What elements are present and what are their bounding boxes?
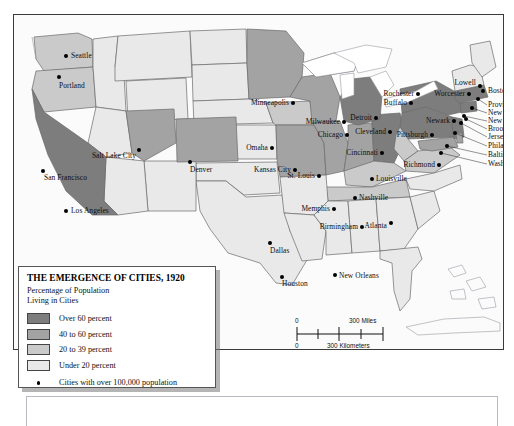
city-dot-washington <box>439 151 443 155</box>
city-dot-dallas <box>268 241 272 245</box>
legend-subtitle-line1: Percentage of Population <box>27 286 207 296</box>
city-label-newark: Newark <box>426 117 450 125</box>
legend-city-dot-wrap <box>27 377 50 388</box>
city-dot-denver <box>188 160 192 164</box>
city-dot-lowell <box>478 84 482 88</box>
legend-label-3: Under 20 percent <box>59 361 116 370</box>
city-dot-newark <box>452 119 456 123</box>
city-dot-baltimore <box>445 144 449 148</box>
city-dot-cleveland <box>388 130 392 134</box>
scale-km-zero: 0 <box>295 342 299 349</box>
city-label-seattle: Seattle <box>71 52 92 60</box>
city-label-washington: Washington <box>488 160 504 168</box>
legend-row-2: 20 to 39 percent <box>27 342 207 358</box>
legend-row-1: 40 to 60 percent <box>27 327 207 343</box>
city-label-new-orleans: New Orleans <box>339 272 379 280</box>
city-label-baltimore: Baltimore <box>488 151 504 159</box>
city-dot-philadelphia <box>453 131 457 135</box>
city-dot-minneapolis <box>291 101 295 105</box>
city-dot-providence <box>476 97 480 101</box>
city-label-buffalo: Buffalo <box>384 99 407 107</box>
city-dot-detroit <box>374 116 378 120</box>
legend-items: Over 60 percent40 to 60 percent20 to 39 … <box>27 311 207 373</box>
city-dot-cincinnati <box>380 151 384 155</box>
city-dot-atlanta <box>389 221 393 225</box>
city-dot-omaha <box>270 146 274 150</box>
legend-title: THE EMERGENCE OF CITIES, 1920 <box>27 273 207 283</box>
city-label-denver: Denver <box>190 166 212 174</box>
legend-row-city-dot: Cities with over 100,000 population <box>27 375 207 391</box>
city-label-minneapolis: Minneapolis <box>251 99 289 107</box>
city-label-portland: Portland <box>59 82 85 90</box>
legend-swatch-2 <box>27 344 50 355</box>
legend-city-dot-label: Cities with over 100,000 population <box>59 378 177 387</box>
city-label-birmingham: Birmingham <box>320 223 358 231</box>
city-label-cincinnati: Cincinnati <box>346 149 378 157</box>
city-label-worcester: Worcester <box>434 90 465 98</box>
city-label-houston: Houston <box>282 280 308 288</box>
city-dot-louisville <box>370 177 374 181</box>
city-dot-worcester <box>467 92 471 96</box>
city-label-detroit: Detroit <box>350 114 372 122</box>
city-label-memphis: Memphis <box>301 205 330 213</box>
legend-label-0: Over 60 percent <box>59 314 112 323</box>
city-dot-nashville <box>353 196 357 200</box>
legend-label-2: 20 to 39 percent <box>59 345 112 354</box>
city-dot-los-angeles <box>64 209 68 213</box>
city-dot-seattle <box>64 54 68 58</box>
city-dot-salt-lake-city <box>137 148 141 152</box>
city-label-atlanta: Atlanta <box>365 222 387 230</box>
city-dot-rochester <box>416 92 420 96</box>
city-dot-icon <box>37 381 41 385</box>
city-dot-chicago <box>345 133 349 137</box>
legend-subtitle-line2: Living in Cities <box>27 296 207 306</box>
city-dot-memphis <box>332 207 336 211</box>
scale-miles-zero: 0 <box>295 317 299 324</box>
scale-km-label: 300 Kilometers <box>327 342 370 349</box>
legend-swatch-3 <box>27 360 50 371</box>
city-dot-milwaukee <box>342 120 346 124</box>
city-dot-brooklyn <box>464 117 468 121</box>
city-label-san-francisco: San Francisco <box>44 174 87 182</box>
city-label-louisville: Louisville <box>376 175 407 183</box>
city-label-boston: Boston <box>488 87 504 95</box>
city-label-omaha: Omaha <box>246 144 268 152</box>
city-label-pittsburgh: Pittsburgh <box>397 131 428 139</box>
legend-row-3: Under 20 percent <box>27 358 207 374</box>
city-dot-new-haven <box>470 106 474 110</box>
city-label-rochester: Rochester <box>384 90 414 98</box>
city-label-salt-lake-city: Salt Lake City <box>92 152 136 160</box>
city-dot-richmond <box>437 163 441 167</box>
map-legend: THE EMERGENCE OF CITIES, 1920 Percentage… <box>18 266 216 388</box>
city-label-richmond: Richmond <box>403 161 435 169</box>
legend-label-1: 40 to 60 percent <box>59 330 112 339</box>
city-label-los-angeles: Los Angeles <box>71 207 109 215</box>
city-label-philadelphia: Philadelphia <box>488 142 504 150</box>
scale-miles-label: 300 Miles <box>349 317 376 324</box>
city-label-jersey-city: Jersey City <box>488 133 504 141</box>
city-dot-boston <box>481 89 485 93</box>
scale-ticks <box>295 326 399 342</box>
page-content-box-below <box>26 396 498 426</box>
city-dot-jersey-city <box>459 121 463 125</box>
legend-swatch-0 <box>27 313 50 324</box>
city-label-nashville: Nashville <box>359 194 388 202</box>
legend-row-0: Over 60 percent <box>27 311 207 327</box>
scale-bar: 0 300 Miles 0 300 Kilometers <box>295 317 399 350</box>
city-label-cleveland: Cleveland <box>355 128 386 136</box>
city-label-dallas: Dallas <box>270 247 289 255</box>
city-label-st-louis: St. Louis <box>287 172 315 180</box>
city-label-kansas-city: Kansas City <box>254 166 291 174</box>
city-dot-birmingham <box>360 225 364 229</box>
city-dot-pittsburgh <box>430 133 434 137</box>
city-dot-st-louis <box>317 174 321 178</box>
city-dot-buffalo <box>409 101 413 105</box>
legend-swatch-1 <box>27 329 50 340</box>
city-label-milwaukee: Milwaukee <box>306 118 340 126</box>
city-label-chicago: Chicago <box>318 131 343 139</box>
city-label-lowell: Lowell <box>454 79 476 87</box>
city-dot-new-orleans <box>333 273 337 277</box>
city-dot-portland <box>57 75 61 79</box>
